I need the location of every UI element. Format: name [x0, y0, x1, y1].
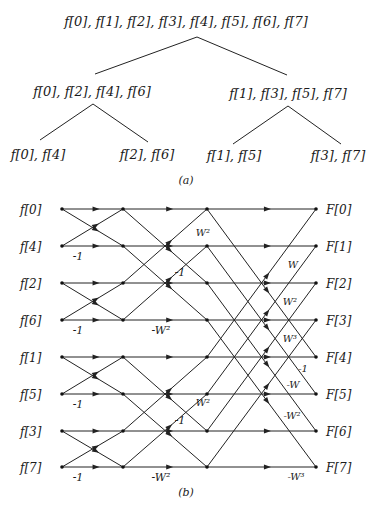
butterfly-node: [121, 281, 125, 285]
arrow-icon: [93, 207, 100, 212]
arrow-icon: [166, 355, 173, 360]
tree-root-label: f[0], f[1], f[2], f[3], f[4], f[5], f[6]…: [63, 14, 309, 29]
weight-label: -1: [175, 266, 186, 279]
tree-leaf-label: f[1], f[5]: [206, 148, 263, 163]
tree-edge: [40, 104, 93, 140]
weight-label: -W²: [283, 410, 300, 421]
butterfly-node: [314, 318, 318, 322]
output-label: F[0]: [325, 203, 352, 217]
butterfly-node: [314, 281, 318, 285]
butterfly-node: [314, 355, 318, 359]
arrow-icon: [93, 318, 100, 323]
butterfly-node: [314, 392, 318, 396]
tree-leaf-label: f[2], f[6]: [119, 147, 176, 162]
butterfly-diagram: f[0]f[4]f[2]f[6]f[1]f[5]f[3]f[7]F[0]F[1]…: [19, 203, 352, 484]
arrow-icon: [166, 318, 173, 323]
weight-label: -W²: [152, 471, 171, 484]
weight-label: -1: [298, 363, 308, 374]
tree-edge: [197, 37, 287, 75]
weight-label: W³: [283, 333, 297, 344]
butterfly-node: [121, 392, 125, 396]
weight-label: -1: [175, 414, 186, 427]
butterfly-node: [60, 465, 64, 469]
input-label: f[6]: [19, 314, 42, 328]
weight-label: W: [288, 259, 299, 270]
caption-b: (b): [178, 486, 194, 499]
arrow-icon: [264, 355, 271, 360]
arrow-icon: [264, 429, 271, 434]
arrow-icon: [263, 324, 269, 331]
arrow-icon: [93, 465, 100, 470]
butterfly-node: [314, 207, 318, 211]
weight-label: -1: [73, 398, 84, 411]
arrow-icon: [264, 207, 271, 212]
tree-right-label: f[1], f[3], f[5], f[7]: [228, 86, 348, 101]
butterfly-node: [205, 244, 209, 248]
weight-label: -W²: [152, 324, 171, 337]
output-label: F[2]: [325, 277, 352, 291]
input-label: f[5]: [19, 388, 42, 402]
weight-label: -1: [73, 250, 84, 263]
butterfly-node: [60, 429, 64, 433]
input-label: f[0]: [19, 203, 42, 217]
arrow-icon: [264, 465, 271, 470]
butterfly-node: [205, 355, 209, 359]
weight-label: -1: [73, 324, 84, 337]
arrow-icon: [264, 244, 271, 249]
arrow-icon: [166, 392, 173, 397]
input-label: f[4]: [19, 240, 42, 254]
butterfly-node: [314, 244, 318, 248]
output-label: F[5]: [325, 388, 352, 402]
tree-left-label: f[0], f[2], f[4], f[6]: [32, 84, 152, 99]
butterfly-node: [121, 465, 125, 469]
weight-label: -W³: [287, 471, 304, 482]
butterfly-node: [121, 207, 125, 211]
output-label: F[7]: [325, 461, 352, 475]
weight-label: W²: [196, 227, 210, 238]
weight-label: -1: [73, 471, 84, 484]
butterfly-node: [205, 429, 209, 433]
butterfly-node: [205, 281, 209, 285]
arrow-icon: [264, 281, 271, 286]
arrow-icon: [166, 207, 173, 212]
arrow-icon: [263, 361, 269, 368]
output-label: F[1]: [325, 240, 352, 254]
arrow-icon: [93, 429, 100, 434]
decomposition-tree: f[0], f[1], f[2], f[3], f[4], f[5], f[6]…: [10, 14, 367, 187]
weight-label: -W: [286, 379, 300, 390]
weight-label: W²: [283, 296, 297, 307]
butterfly-node: [121, 429, 125, 433]
arrow-icon: [264, 318, 271, 323]
butterfly-node: [205, 207, 209, 211]
arrow-icon: [166, 465, 173, 470]
butterfly-node: [60, 281, 64, 285]
arrow-icon: [263, 287, 269, 294]
tree-edge: [93, 104, 148, 142]
arrow-icon: [263, 346, 269, 353]
butterfly-node: [205, 392, 209, 396]
tree-edge: [233, 106, 288, 144]
tree-leaf-label: f[3], f[7]: [310, 148, 367, 163]
output-label: F[4]: [325, 351, 352, 365]
butterfly-node: [121, 318, 125, 322]
input-label: f[7]: [19, 461, 42, 475]
weight-label: W²: [196, 397, 210, 408]
arrow-icon: [264, 392, 271, 397]
output-label: F[6]: [325, 425, 352, 439]
arrow-icon: [263, 272, 269, 279]
butterfly-node: [314, 465, 318, 469]
arrow-icon: [93, 244, 100, 249]
tree-leaf-label: f[0], f[4]: [10, 147, 67, 162]
butterfly-node: [60, 355, 64, 359]
fft-diagram: f[0], f[1], f[2], f[3], f[4], f[5], f[6]…: [0, 0, 372, 509]
tree-edge: [288, 106, 341, 144]
butterfly-node: [205, 318, 209, 322]
butterfly-node: [314, 429, 318, 433]
butterfly-node: [205, 465, 209, 469]
butterfly-node: [60, 244, 64, 248]
arrow-icon: [263, 383, 269, 390]
arrow-icon: [93, 355, 100, 360]
input-label: f[2]: [19, 277, 42, 291]
tree-edge: [95, 37, 197, 74]
input-label: f[1]: [19, 351, 42, 365]
